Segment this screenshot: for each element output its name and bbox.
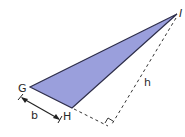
base-extension-line xyxy=(74,109,108,126)
triangle-diagram: G H I b h xyxy=(0,0,185,137)
vertex-label-g: G xyxy=(18,82,27,95)
triangle-ghi xyxy=(30,14,177,108)
height-label: h xyxy=(144,76,151,89)
vertex-label-i: I xyxy=(179,7,182,20)
right-angle-marker xyxy=(105,118,113,123)
vertex-label-h: H xyxy=(63,110,71,123)
base-label: b xyxy=(31,109,38,122)
